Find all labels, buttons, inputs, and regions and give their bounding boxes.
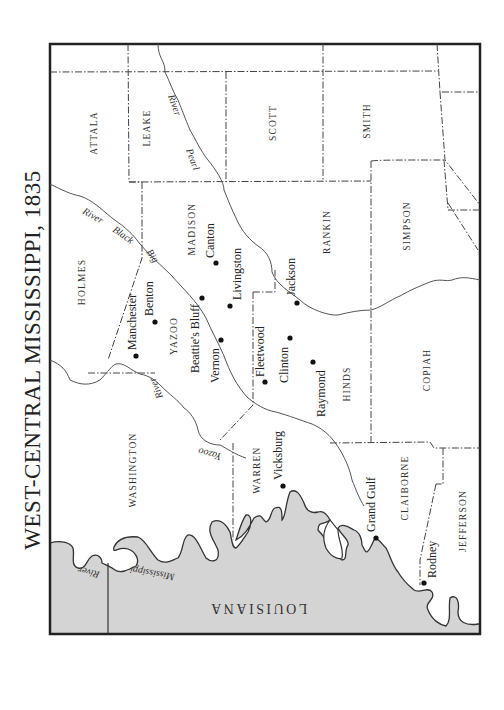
town-canton: Canton [203,223,217,258]
town-jackson: Jackson [284,258,298,296]
town-fleetwood: Fleetwood [253,326,267,377]
town-benton: Benton [142,281,156,316]
town-dot-livingston [227,303,232,308]
county-hinds: HINDS [342,366,352,401]
county-warren: WARREN [252,446,262,493]
town-dot-canton [213,260,218,265]
town-dot-vicksburg [280,483,285,488]
county-boundaries [50,44,480,585]
town-dot-jackson [294,300,299,305]
yazoo-label-yazoo: Yazoo [197,446,223,463]
county-leake: LEAKE [142,109,152,146]
town-dot-raymond [310,359,315,364]
county-yazoo: YAZOO [169,317,179,355]
pearl-river [158,44,480,315]
county-jefferson: JEFFERSON [458,490,468,552]
town-vernon: Vernon [208,348,222,383]
county-simpson: SIMPSON [402,201,412,251]
town-dot-vernon [218,337,223,342]
county-claiborne: CLAIBORNE [400,455,410,520]
county-washington: WASHINGTON [128,432,138,507]
county-copiah: COPIAH [422,349,432,392]
county-scott: SCOTT [268,105,278,141]
town-dot-benton [152,319,157,324]
rivers [50,44,480,506]
town-dot-clinton [287,335,292,340]
town-dot-manchester [133,353,138,358]
county-attala: ATTALA [89,111,99,154]
town-dot-grand-gulf [373,535,378,540]
town-rodney: Rodney [425,541,439,578]
town-dot-fleetwood [262,379,267,384]
pearl-river-label-pearl: Pearl [184,146,202,172]
yazoo-label-river: River [147,376,166,401]
county-holmes: HOLMES [77,259,87,305]
town-dot-rodney [421,580,426,585]
state-label-louisiana: LOUISIANA [209,601,308,616]
big-black-label-black: Black [111,224,136,246]
town-grand-gulf: Grand Gulf [364,477,378,532]
town-vicksburg: Vicksburg [271,431,285,480]
pearl-river-label-river: River [166,92,184,117]
county-madison: MADISON [187,203,197,256]
big-black-label-river: River [80,205,105,226]
town-livingston: Livingston [230,248,244,300]
county-rankin: RANKIN [322,210,332,254]
town-clinton: Clinton [277,347,291,383]
town-raymond: Raymond [314,370,328,417]
town-beatties-bluff: Beattie's Bluff [188,304,202,373]
town-dot-beatties-bluff [199,295,204,300]
town-manchester: Manchester [125,294,139,350]
map-canvas: ATTALA LEAKE SCOTT SMITH HOLMES MADISON … [0,0,504,710]
county-smith: SMITH [362,103,372,139]
big-black-label-big: Big [144,247,161,265]
